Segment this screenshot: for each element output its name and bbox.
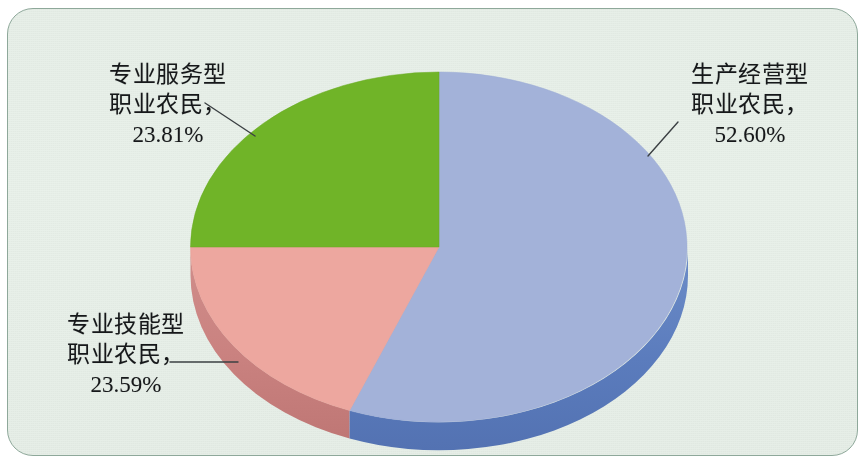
slice-label-production-line1: 生产经营型 (660, 60, 840, 90)
slice-label-service-value: 23.81% (78, 120, 258, 150)
slice-label-service-line2: 职业农民， (78, 90, 258, 120)
figure-root: 专业服务型 职业农民， 23.81% 生产经营型 职业农民， 52.60% 专业… (0, 0, 865, 464)
slice-label-production-line2: 职业农民， (660, 90, 840, 120)
slice-label-skill: 专业技能型 职业农民， 23.59% (36, 310, 216, 400)
slice-label-production-value: 52.60% (660, 120, 840, 150)
pie-top-faces (190, 72, 686, 422)
slice-label-skill-line1: 专业技能型 (36, 310, 216, 340)
slice-label-service: 专业服务型 职业农民， 23.81% (78, 60, 258, 150)
slice-label-production: 生产经营型 职业农民， 52.60% (660, 60, 840, 150)
slice-label-service-line1: 专业服务型 (78, 60, 258, 90)
slice-label-skill-value: 23.59% (36, 370, 216, 400)
slice-label-skill-line2: 职业农民， (36, 340, 216, 370)
